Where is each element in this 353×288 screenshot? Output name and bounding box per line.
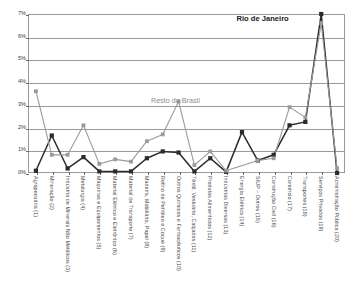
x-axis-category-label: Material Elétrico e Eletrônico (6)	[112, 176, 117, 255]
x-axis-category-label: Energia Elétrica (14)	[239, 176, 244, 226]
data-point-marker	[319, 12, 323, 16]
data-point-marker	[193, 163, 197, 167]
data-point-marker	[66, 166, 70, 170]
y-axis-tick-label: 6%	[6, 34, 26, 40]
annotation-resto-do-brasil: Resto do Brasil	[151, 98, 200, 105]
data-point-marker	[34, 89, 38, 93]
data-point-marker	[288, 105, 292, 109]
y-axis-tick	[26, 174, 29, 175]
data-point-marker	[240, 130, 244, 134]
series-line	[36, 14, 337, 173]
data-point-marker	[81, 155, 85, 159]
x-axis-category-label: Refino de Petróleo e Coque (9)	[159, 176, 164, 252]
data-point-marker	[303, 120, 307, 124]
x-axis-category-label: Produtos Alimentícios (12)	[207, 176, 212, 240]
data-point-marker	[192, 169, 196, 173]
data-point-marker	[113, 169, 117, 173]
x-axis-labels: Agropecuária (1)Mineração (2)Indústria d…	[28, 176, 345, 288]
x-axis-category-label: Comércio (17)	[286, 176, 291, 211]
annotation-rio-de-janeiro: Rio de Janeiro	[236, 15, 288, 23]
x-axis-category-label: Construção Civil (16)	[270, 176, 275, 228]
y-axis-tick-label: 1%	[6, 147, 26, 153]
x-axis-category-label: Indústria de Minerais Não Metálicos (3)	[64, 176, 69, 272]
data-point-marker	[145, 139, 149, 143]
data-point-marker	[208, 150, 212, 154]
data-point-marker	[50, 133, 54, 137]
data-point-marker	[113, 157, 117, 161]
data-point-marker	[208, 156, 212, 160]
x-axis-category-label: SIUP – Outros (15)	[255, 176, 260, 223]
series-layer	[28, 14, 345, 173]
data-point-marker	[176, 150, 180, 154]
x-axis-category-label: Têxtil, Vestuário, Calçados (11)	[191, 176, 196, 252]
x-axis-category-label: Serviços Privados (19)	[318, 176, 323, 231]
y-axis-tick-label: 2%	[6, 125, 26, 131]
data-point-marker	[335, 167, 339, 171]
x-axis-category-label: Administração Pública (20)	[334, 176, 339, 242]
x-axis-category-label: Mineração (2)	[48, 176, 53, 210]
data-point-marker	[256, 159, 260, 163]
data-point-marker	[161, 149, 165, 153]
y-axis-tick-label: 5%	[6, 57, 26, 63]
data-point-marker	[224, 169, 228, 173]
data-point-marker	[145, 156, 149, 160]
y-axis-tick-label: 4%	[6, 79, 26, 85]
data-point-marker	[82, 123, 86, 127]
data-point-marker	[335, 171, 339, 175]
x-axis-category-label: Madeira, Mobiliário, Papel (8)	[144, 176, 149, 248]
data-point-marker	[129, 160, 133, 164]
x-axis-category-label: Agropecuária (1)	[33, 176, 38, 217]
data-point-marker	[287, 123, 291, 127]
data-point-marker	[66, 153, 70, 157]
y-axis-tick-label: 7%	[6, 11, 26, 17]
data-point-marker	[50, 153, 54, 157]
x-axis-category-label: Metalurgia (4)	[80, 176, 85, 210]
x-axis-category-label: Transportes (18)	[302, 176, 307, 217]
x-axis-category-label: Outros Químicos e Farmacêuticos (10)	[175, 176, 180, 271]
data-point-marker	[161, 132, 165, 136]
data-point-marker	[303, 115, 307, 119]
x-axis-category-label: Material de Transporte (7)	[128, 176, 133, 240]
data-point-marker	[272, 156, 276, 160]
data-point-marker	[97, 162, 101, 166]
y-axis-tick-label: 0%	[6, 170, 26, 176]
y-axis-tick-label: 3%	[6, 102, 26, 108]
x-axis-category-label: Máquinas e Equipamentos (5)	[96, 176, 101, 249]
data-point-marker	[272, 153, 276, 157]
x-axis-category-label: Indústrias Diversas (13)	[223, 176, 228, 234]
data-point-marker	[129, 169, 133, 173]
data-point-marker	[34, 169, 38, 173]
data-point-marker	[97, 169, 101, 173]
chart-container: 0%1%2%3%4%5%6%7% Rio de Janeiro Resto do…	[0, 0, 353, 288]
data-point-marker	[319, 21, 323, 25]
